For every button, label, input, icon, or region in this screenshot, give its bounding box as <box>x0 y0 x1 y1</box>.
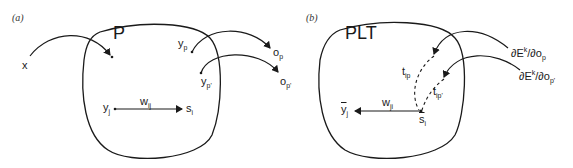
label-opp: op' <box>280 76 291 89</box>
label-grad-p: ∂Ek/∂op <box>511 46 546 61</box>
label-x: x <box>22 60 28 71</box>
label-tipp: tip' <box>433 86 443 99</box>
panel-a-title: P <box>113 24 125 42</box>
network-boundary-p <box>83 24 221 158</box>
gradient-arrow-pp <box>444 56 520 77</box>
panel-b-title: PLT <box>345 24 377 42</box>
label-tip: tip <box>402 66 411 79</box>
label-si: si <box>186 103 193 116</box>
input-arrow-x <box>30 36 110 56</box>
panel-b-tag: (b) <box>306 12 318 23</box>
label-ypp: yp' <box>201 76 212 89</box>
label-op: op <box>273 47 283 60</box>
label-wji: wji <box>382 97 393 110</box>
label-grad-pp: ∂Ek/∂op' <box>519 69 555 84</box>
gradient-arrow-p <box>434 31 508 54</box>
label-wij: wij <box>140 96 151 109</box>
panel-a-tag: (a) <box>12 12 24 23</box>
label-sbar-i: si <box>419 114 426 127</box>
label-yj: yj <box>103 102 110 115</box>
output-arrow-op <box>192 31 270 52</box>
output-arrow-opp <box>201 55 278 73</box>
dashed-path-tip <box>415 56 434 110</box>
label-yp: yp <box>178 38 187 51</box>
label-ybar-j: yj <box>341 104 348 117</box>
